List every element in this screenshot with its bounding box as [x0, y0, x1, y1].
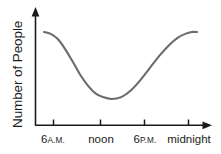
x-tick-label-6pm: 6P.M.	[134, 132, 157, 148]
x-tick-label-noon: noon	[88, 132, 114, 146]
x-tick-label-6am: 6A.M.	[41, 132, 65, 148]
x-tick-label-text: midnight	[167, 133, 210, 145]
line-chart: Number of People 6A.M. noon 6P.M. midnig…	[0, 0, 221, 154]
x-tick-label-suffix: P.M.	[140, 136, 157, 145]
y-axis-arrowhead-icon	[32, 7, 40, 17]
x-axis-arrowhead-icon	[203, 121, 213, 129]
x-axis	[35, 121, 212, 129]
y-axis-title: Number of People	[8, 18, 28, 128]
y-axis	[32, 7, 40, 126]
x-tick-label-suffix: A.M.	[47, 136, 65, 145]
x-tick-label-midnight: midnight	[167, 132, 210, 146]
data-series-curve	[44, 32, 197, 99]
x-tick-label-text: noon	[88, 133, 114, 145]
chart-plot-area	[0, 0, 221, 154]
